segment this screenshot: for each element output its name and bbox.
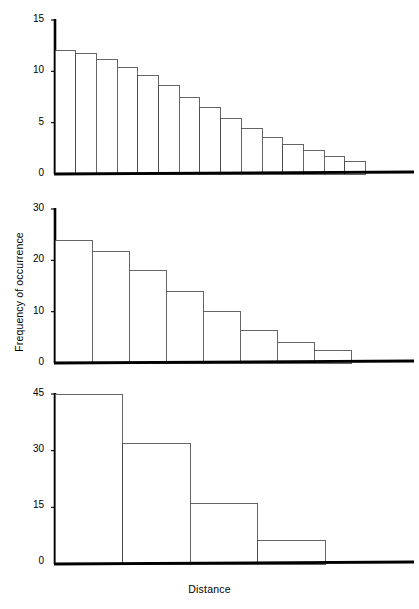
x-axis-baseline	[54, 361, 414, 363]
histogram-bar	[159, 86, 180, 174]
tick-label-top-2: 5	[22, 117, 44, 127]
histogram-bar	[76, 54, 97, 174]
histogram-bar	[200, 107, 221, 174]
panel-top: 15 10 5 0	[0, 0, 419, 190]
histogram-bar	[241, 129, 262, 174]
panel-bottom: 45 30 15 0	[0, 380, 419, 580]
histogram-bar	[55, 241, 92, 363]
histogram-bar	[283, 145, 304, 174]
histogram-bar	[166, 291, 203, 363]
tick-label-top-1: 10	[22, 65, 44, 75]
histogram-bar	[203, 312, 240, 363]
tick-label-bottom-2: 15	[20, 500, 44, 510]
tick-label-top-0: 15	[22, 14, 44, 24]
histogram-bar	[179, 97, 200, 174]
histogram-bar	[221, 119, 242, 174]
panel-top-plot	[0, 0, 419, 190]
histogram-bar	[55, 394, 123, 564]
panel-middle-plot	[0, 190, 419, 380]
histogram-bar	[55, 51, 76, 174]
histogram-bar	[92, 251, 129, 363]
panel-middle: 30 20 10 0	[0, 190, 419, 380]
tick-label-bottom-0: 45	[20, 388, 44, 398]
histogram-bar	[190, 504, 258, 564]
histogram-bar	[129, 270, 166, 363]
histogram-figure: 15 10 5 0 30 20 10 0 45 30 15 0 Frequenc…	[0, 0, 419, 609]
histogram-bar	[262, 137, 283, 174]
histogram-bar	[240, 330, 277, 363]
x-axis-label: Distance	[0, 583, 419, 595]
x-axis-baseline	[54, 562, 414, 564]
tick-label-bottom-1: 30	[20, 444, 44, 454]
histogram-bar	[96, 59, 117, 174]
histogram-bar	[277, 342, 314, 363]
histogram-bar	[258, 540, 326, 564]
y-axis-label: Frequency of occurrence	[13, 212, 25, 372]
tick-label-top-3: 0	[22, 168, 44, 178]
histogram-bar	[117, 67, 138, 174]
histogram-bar	[123, 444, 191, 564]
tick-label-bottom-3: 0	[20, 556, 44, 566]
histogram-bar	[138, 75, 159, 174]
panel-bottom-plot	[0, 380, 419, 580]
x-axis-baseline	[54, 172, 414, 174]
histogram-bar	[303, 151, 324, 174]
